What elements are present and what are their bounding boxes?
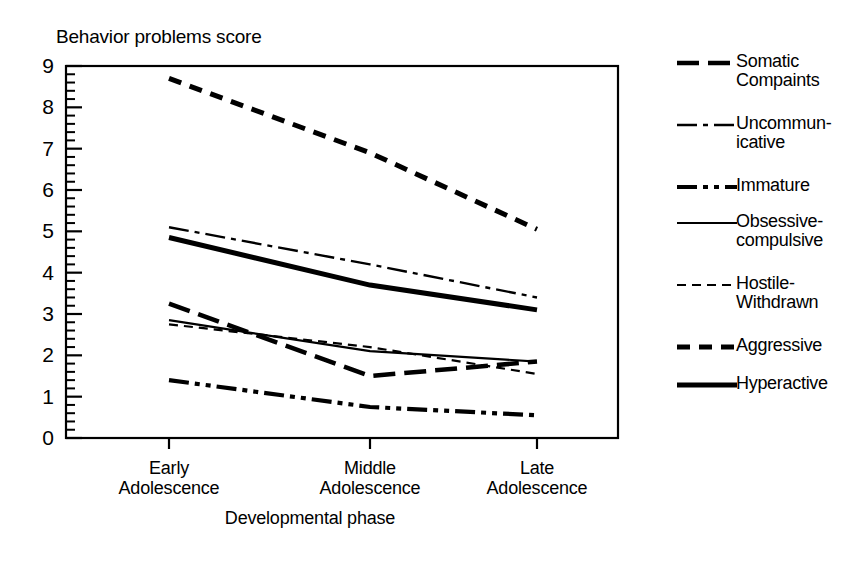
y-tick-label: 0 (24, 427, 54, 448)
series-line-3 (169, 320, 537, 361)
legend-item-label: Aggressive (736, 336, 822, 355)
legend-line-sample-icon (676, 178, 738, 196)
x-tick-label-line: Adolescence (74, 478, 264, 498)
legend-item-label: Somatic Compaints (736, 52, 819, 91)
y-tick-label: 8 (24, 96, 54, 117)
legend-line-sample-icon (676, 214, 738, 232)
y-tick-label: 2 (24, 344, 54, 365)
x-axis-title: Developmental phase (0, 508, 620, 529)
legend-item-0[interactable]: Somatic Compaints (676, 52, 819, 91)
y-tick-label: 5 (24, 220, 54, 241)
x-tick-label-2: LateAdolescence (442, 458, 632, 498)
legend-item-1[interactable]: Uncommun- icative (676, 114, 831, 153)
x-tick-label-0: EarlyAdolescence (74, 458, 264, 498)
legend-item-label: Hyperactive (736, 374, 828, 393)
y-tick-label: 3 (24, 303, 54, 324)
legend-item-6[interactable]: Hyperactive (676, 374, 828, 394)
legend-item-4[interactable]: Hostile- Withdrawn (676, 274, 818, 313)
x-tick-label-line: Adolescence (275, 478, 465, 498)
figure-behavior-problems-by-developmental-phase: Behavior problems score 9876543210 Early… (0, 0, 842, 561)
legend-item-label: Hostile- Withdrawn (736, 274, 818, 313)
legend-item-label: Uncommun- icative (736, 114, 831, 153)
series-line-6 (169, 238, 537, 310)
y-tick-label: 7 (24, 138, 54, 159)
legend-item-label: Obsessive- compulsive (736, 212, 823, 251)
x-tick-label-1: MiddleAdolescence (275, 458, 465, 498)
series-line-2 (169, 380, 537, 415)
x-tick-label-line: Early (74, 458, 264, 478)
legend-line-sample-icon (676, 338, 738, 356)
plot-frame (66, 66, 618, 438)
legend-line-sample-icon (676, 276, 738, 294)
legend-item-3[interactable]: Obsessive- compulsive (676, 212, 823, 251)
series-line-1 (169, 227, 537, 297)
legend-item-label: Immature (736, 176, 810, 195)
y-tick-label: 1 (24, 386, 54, 407)
x-tick-label-line: Adolescence (442, 478, 632, 498)
legend-item-5[interactable]: Aggressive (676, 336, 822, 356)
y-tick-label: 9 (24, 55, 54, 76)
legend-line-sample-icon (676, 116, 738, 134)
series-line-5 (169, 78, 537, 229)
y-tick-label: 4 (24, 262, 54, 283)
y-tick-label: 6 (24, 179, 54, 200)
legend-line-sample-icon (676, 376, 738, 394)
legend-line-sample-icon (676, 54, 738, 72)
x-tick-label-line: Late (442, 458, 632, 478)
legend-item-2[interactable]: Immature (676, 176, 810, 196)
x-tick-label-line: Middle (275, 458, 465, 478)
